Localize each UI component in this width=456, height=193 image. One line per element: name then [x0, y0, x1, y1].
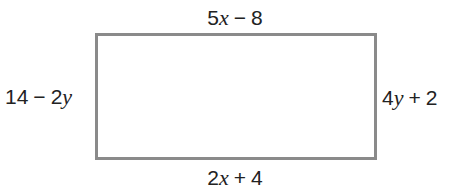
left-coefficient: 2	[51, 85, 63, 108]
bottom-coefficient: 2	[207, 166, 219, 189]
top-variable: x	[219, 5, 229, 30]
top-side-label: 5x−8	[0, 7, 456, 29]
top-coefficient: 5	[207, 6, 219, 29]
top-operator: −	[229, 6, 251, 29]
rectangle-shape	[95, 33, 377, 160]
left-side-label: 14−2y	[5, 86, 72, 108]
right-constant: 2	[426, 86, 438, 109]
top-constant: 8	[251, 6, 263, 29]
right-variable: y	[394, 85, 404, 110]
right-coefficient: 4	[382, 86, 394, 109]
right-operator: +	[403, 86, 425, 109]
bottom-operator: +	[229, 166, 251, 189]
bottom-variable: x	[219, 165, 229, 190]
bottom-constant: 4	[251, 166, 263, 189]
left-constant: 14	[5, 85, 28, 108]
left-operator: −	[28, 85, 50, 108]
bottom-side-label: 2x+4	[0, 167, 456, 189]
left-variable: y	[62, 84, 72, 109]
right-side-label: 4y+2	[382, 87, 437, 109]
